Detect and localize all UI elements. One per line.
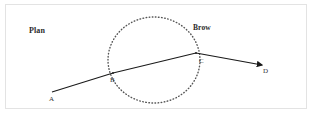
point-marker-b: [112, 72, 114, 74]
plan-label: Plan: [29, 27, 45, 35]
diagram-canvas: [0, 0, 319, 124]
point-marker-c: [195, 52, 197, 54]
segment-a-b: [52, 73, 113, 92]
diagram-screenshot: Plan Brow A B C D: [0, 0, 319, 124]
point-label-b: B: [110, 77, 115, 84]
point-label-d: D: [263, 68, 268, 75]
segment-c-d: [196, 53, 262, 65]
dotted-circle-brow: [108, 17, 200, 103]
point-label-a: A: [49, 96, 54, 103]
brow-label: Brow: [193, 24, 211, 32]
point-label-c: C: [199, 58, 204, 65]
segment-b-c: [113, 53, 196, 73]
